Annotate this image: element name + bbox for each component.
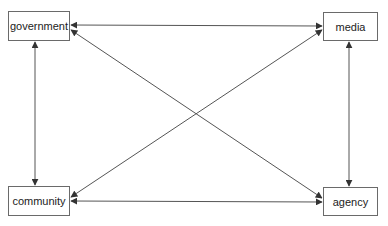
node-agency: agency [323, 187, 378, 216]
edge-community-agency [71, 201, 322, 202]
edge-government-media [71, 25, 322, 26]
node-label-government: government [10, 20, 68, 32]
node-media: media [323, 12, 378, 41]
node-label-media: media [336, 21, 366, 33]
node-government: government [8, 11, 70, 41]
node-label-community: community [12, 195, 65, 207]
node-community: community [8, 186, 70, 216]
node-label-agency: agency [333, 196, 368, 208]
